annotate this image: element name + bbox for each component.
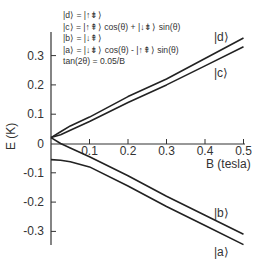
y-tick-label: 0 [37, 137, 44, 151]
state-definitions-legend: |d⟩ = |↑⇟⟩ |c⟩ = |↑⇞⟩ cos(θ) + |↓⇟⟩ sin(… [63, 10, 180, 68]
y-tick-label: -0.1 [23, 166, 44, 180]
x-tick-label: 0.3 [158, 144, 175, 158]
state-label-c: |c⟩ [214, 66, 228, 80]
y-tick-label: 0.2 [27, 78, 44, 92]
legend-line-a: |a⟩ = |↓⇟⟩ cos(θ) - |↑⇞⟩ sin(θ) [63, 45, 180, 57]
x-axis-label: B (tesla) [206, 157, 251, 171]
series-line-a [51, 160, 244, 245]
x-tick-label: 0.5 [235, 144, 252, 158]
legend-line-tan: tan(2θ) = 0.05/B [63, 56, 180, 68]
y-tick-label: -0.3 [23, 224, 44, 238]
state-label-d: |d⟩ [214, 30, 229, 44]
legend-line-b: |b⟩ = |↓⇞⟩ [63, 33, 180, 45]
y-tick-label: 0.3 [27, 49, 44, 63]
legend-line-c: |c⟩ = |↑⇞⟩ cos(θ) + |↓⇟⟩ sin(θ) [63, 22, 180, 34]
state-label-b: |b⟩ [214, 206, 229, 220]
y-tick-label: -0.2 [23, 195, 44, 209]
x-tick-label: 0.4 [197, 144, 214, 158]
legend-line-d: |d⟩ = |↑⇟⟩ [63, 10, 180, 22]
state-label-a: |a⟩ [214, 245, 229, 259]
x-tick-label: 0.2 [120, 144, 137, 158]
y-tick-label: 0.1 [27, 107, 44, 121]
y-axis-label: E (K) [4, 123, 18, 150]
